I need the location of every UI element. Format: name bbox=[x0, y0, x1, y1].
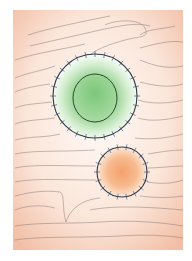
cell-illustration bbox=[0, 0, 192, 261]
large-cell-nucleus bbox=[73, 74, 117, 122]
